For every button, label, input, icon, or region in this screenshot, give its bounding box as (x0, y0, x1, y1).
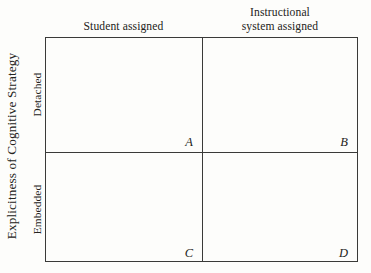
cell-label-b: B (340, 136, 348, 149)
cell-label-a: A (185, 136, 193, 149)
column-header-line-2: system assigned (202, 20, 358, 34)
cell-label-c: C (185, 247, 193, 260)
column-header-student-assigned: Student assigned (45, 20, 202, 34)
matrix-cell-c[interactable]: C (46, 153, 202, 263)
row-label-detached: Detached (29, 40, 44, 150)
cell-label-d: D (339, 247, 348, 260)
y-axis-title: Explicitness of Cognitive Strategy (3, 21, 21, 271)
matrix-cell-a[interactable]: A (46, 38, 202, 152)
column-header-line-1: Instructional (202, 6, 358, 20)
column-header-instructional-system-assigned: Instructional system assigned (202, 6, 358, 33)
matrix-cell-b[interactable]: B (203, 38, 359, 152)
figure-canvas: Explicitness of Cognitive Strategy Detac… (0, 0, 371, 273)
matrix-frame: A B C D (45, 37, 358, 262)
matrix-cell-d[interactable]: D (203, 153, 359, 263)
row-label-embedded: Embedded (29, 155, 44, 265)
